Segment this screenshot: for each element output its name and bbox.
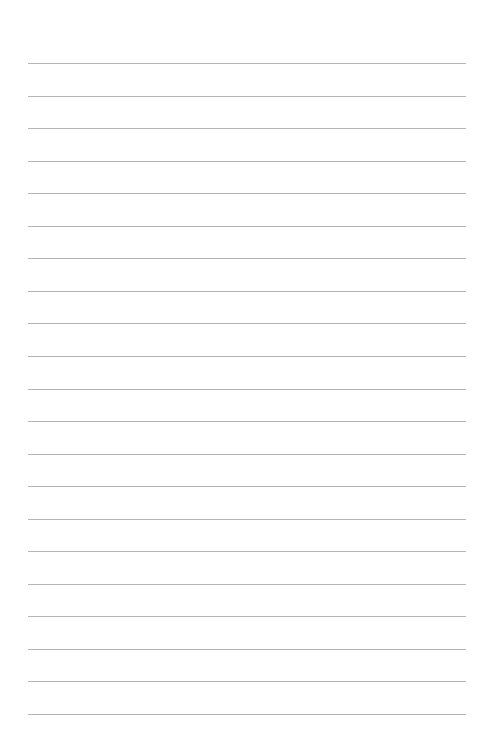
ruled-line: [28, 454, 466, 455]
ruled-line: [28, 519, 466, 520]
ruled-line: [28, 584, 466, 585]
ruled-line: [28, 421, 466, 422]
ruled-line: [28, 551, 466, 552]
ruled-line: [28, 96, 466, 97]
ruled-line: [28, 616, 466, 617]
ruled-line: [28, 356, 466, 357]
ruled-line: [28, 681, 466, 682]
ruled-line: [28, 128, 466, 129]
ruled-line: [28, 291, 466, 292]
ruled-line: [28, 323, 466, 324]
ruled-line: [28, 649, 466, 650]
ruled-line: [28, 226, 466, 227]
ruled-line: [28, 258, 466, 259]
ruled-line: [28, 389, 466, 390]
ruled-line: [28, 193, 466, 194]
lined-paper-page: [0, 0, 485, 753]
ruled-line: [28, 161, 466, 162]
ruled-line: [28, 486, 466, 487]
ruled-line: [28, 63, 466, 64]
ruled-line: [28, 714, 466, 715]
